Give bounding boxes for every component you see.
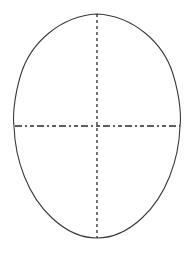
figure-canvas xyxy=(0,0,194,258)
oval-axes-diagram xyxy=(0,0,194,258)
